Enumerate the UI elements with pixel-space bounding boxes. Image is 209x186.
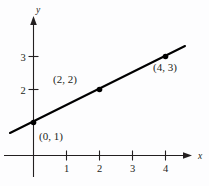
x-axis-arrowhead [183, 152, 192, 159]
y-tick-label-2: 2 [20, 85, 25, 96]
x-tick-label-2: 2 [97, 163, 102, 174]
y-axis-label: y [35, 5, 41, 15]
x-tick-label-1: 1 [64, 163, 69, 174]
coordinate-plane-plot: 1 2 3 4 2 3 y x (0, 1) (2, 2) (4, 3) [0, 0, 209, 186]
point-label-2-2: (2, 2) [53, 73, 77, 86]
x-tick-label-3: 3 [130, 163, 135, 174]
point-label-0-1: (0, 1) [39, 130, 63, 143]
point-label-4-3: (4, 3) [153, 61, 177, 74]
x-axis-label: x [197, 151, 203, 161]
data-point-0-1 [31, 120, 37, 126]
data-point-4-3 [163, 54, 169, 60]
x-tick-label-4: 4 [163, 163, 169, 174]
y-tick-label-3: 3 [20, 52, 25, 63]
y-axis-arrowhead [30, 16, 37, 25]
data-point-2-2 [97, 87, 103, 93]
graph-figure: 1 2 3 4 2 3 y x (0, 1) (2, 2) (4, 3) [0, 0, 209, 186]
